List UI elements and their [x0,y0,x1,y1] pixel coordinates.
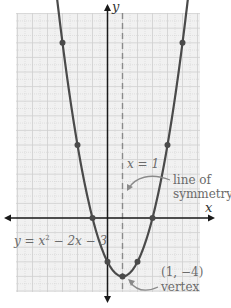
vertex-label: vertex [161,281,199,293]
x-axis-label: x [205,201,212,214]
equation-label: y = x2 − 2x − 3 [14,235,107,247]
parabola-chart [0,0,231,308]
equation-suffix: − 2x − 3 [50,234,107,248]
line-of-symmetry-label-2: symmetry [173,188,231,200]
vertex-coordinates-label: (1, −4) [161,266,203,278]
symmetry-equation-label: x = 1 [127,158,159,170]
equation-prefix: y = x [14,234,45,248]
symmetry-equation-text: x = 1 [127,157,159,171]
y-axis-label: y [112,0,119,13]
line-of-symmetry-label-1: line of [173,174,211,186]
